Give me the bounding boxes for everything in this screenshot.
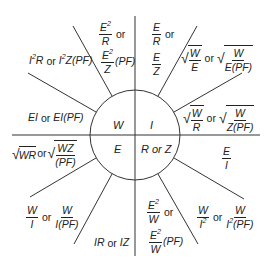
formula-w-e2z: E2Z(PF) (100, 50, 135, 74)
center-e-label: E (114, 143, 121, 155)
formula-w-e2r: E2Ror (98, 22, 128, 46)
formula-e-wr: √WRor√WZ(PF) (12, 140, 77, 167)
formula-r-e2w: E2Wor (146, 200, 176, 224)
formula-i-we: √WEor√WE(PF) (181, 45, 253, 72)
formula-i-wr: √WRor√WZ(PF) (183, 105, 254, 132)
ohms-law-wheel (0, 0, 279, 272)
center-w-label: W (113, 119, 123, 131)
center-i-label: I (150, 119, 153, 131)
formula-i-ez: EZ (151, 52, 162, 76)
formula-r-wi2: WI2orWI2(PF) (196, 205, 255, 229)
formula-r-e2w-pf: E2W(PF) (148, 230, 183, 254)
formula-w-ei: EIorEI(PF) (28, 112, 84, 123)
formula-r-ei: EI (221, 146, 232, 170)
formula-w-i2r: I2RorI2Z(PF) (29, 55, 92, 66)
center-rz-label: R or Z (141, 143, 172, 155)
formula-i-er: ERor (151, 22, 177, 46)
formula-e-ir: IRorIZ (94, 237, 129, 248)
formula-e-wi: WIorWI(PF) (25, 205, 80, 229)
